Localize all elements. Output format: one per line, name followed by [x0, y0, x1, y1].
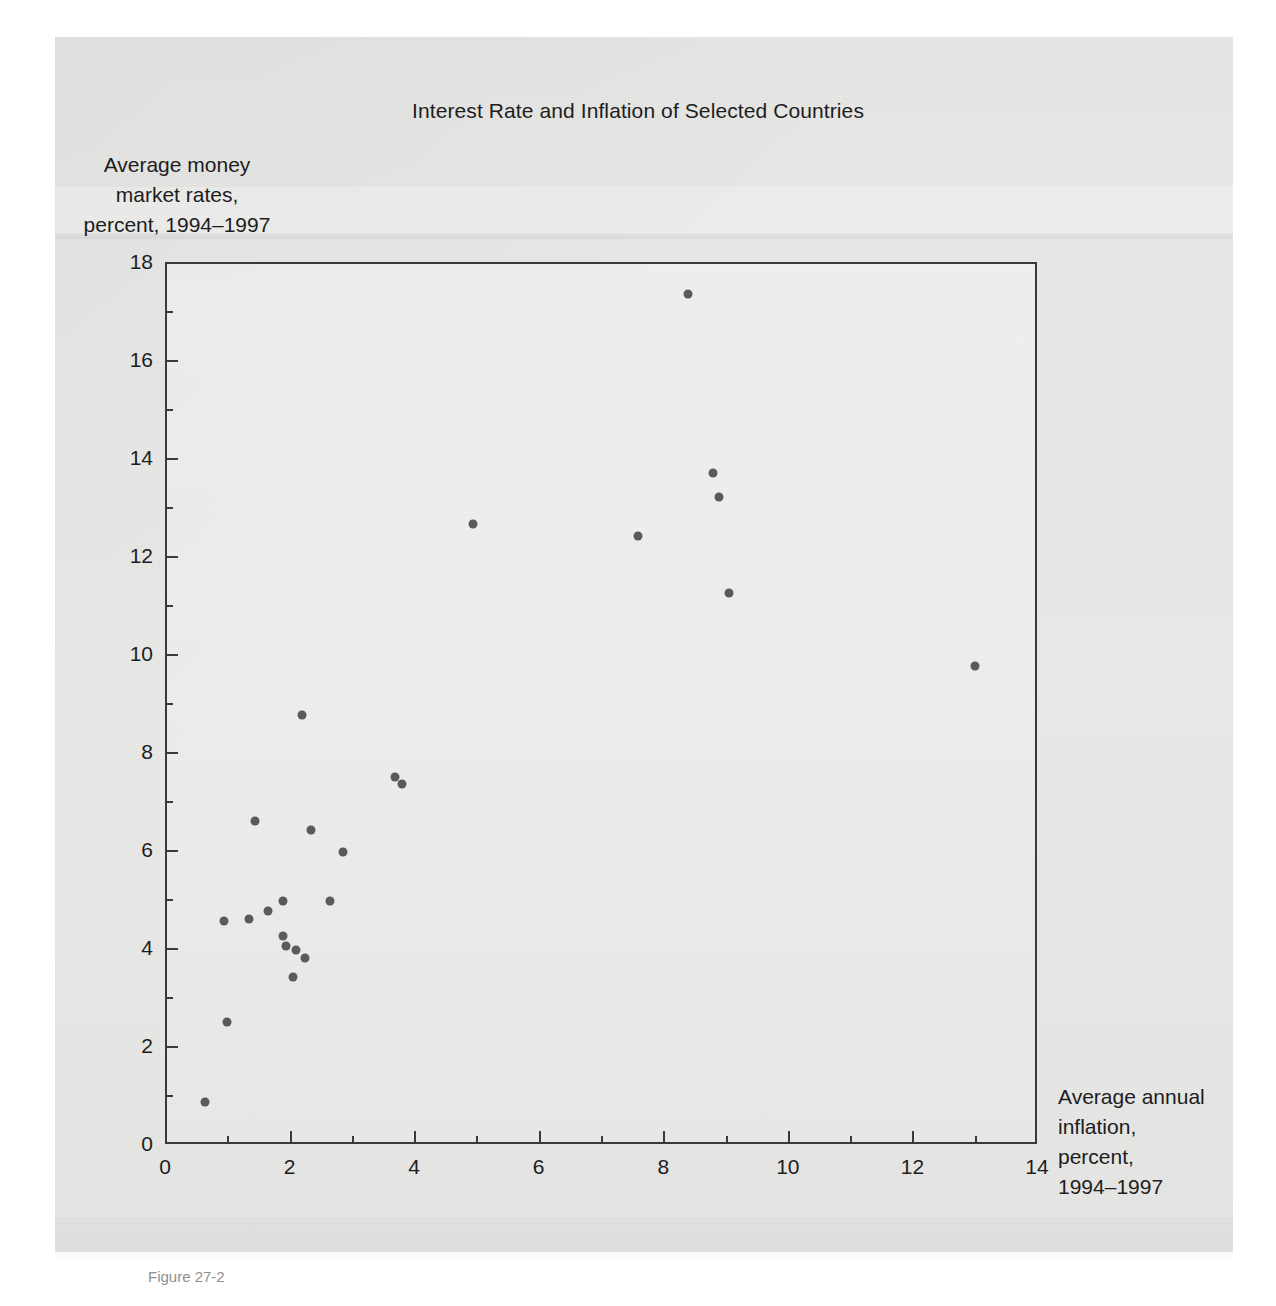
y-axis-tick-label: 12 — [93, 544, 153, 568]
data-point — [469, 520, 478, 529]
y-axis-minor-tick — [165, 507, 173, 509]
y-axis-minor-tick — [165, 899, 173, 901]
x-axis-minor-tick — [850, 1136, 852, 1144]
data-point — [279, 931, 288, 940]
y-axis-tick-label: 2 — [93, 1034, 153, 1058]
x-axis-major-tick — [663, 1131, 665, 1144]
y-axis-label-line-3: percent, 1994–1997 — [52, 210, 302, 240]
y-axis-minor-tick — [165, 311, 173, 313]
x-axis-label: Average annual inflation, percent, 1994–… — [1058, 1082, 1268, 1202]
x-axis-major-tick — [788, 1131, 790, 1144]
x-axis-major-tick — [539, 1131, 541, 1144]
x-axis-tick-label: 6 — [514, 1155, 564, 1179]
chart-title: Interest Rate and Inflation of Selected … — [0, 99, 1276, 123]
scatter-plot-area — [165, 262, 1037, 1144]
data-point — [251, 816, 260, 825]
data-point — [397, 779, 406, 788]
y-axis-major-tick — [165, 556, 178, 558]
y-axis-label-line-2: market rates, — [52, 180, 302, 210]
y-axis-minor-tick — [165, 801, 173, 803]
data-point — [684, 289, 693, 298]
y-axis-label-line-1: Average money — [52, 150, 302, 180]
y-axis-minor-tick — [165, 703, 173, 705]
y-axis-label: Average money market rates, percent, 199… — [52, 150, 302, 240]
x-axis-tick-label: 0 — [140, 1155, 190, 1179]
data-point — [326, 897, 335, 906]
x-axis-minor-tick — [601, 1136, 603, 1144]
y-axis-tick-label: 8 — [93, 740, 153, 764]
figure-caption: Figure 27-2 — [148, 1268, 225, 1285]
x-axis-minor-tick — [476, 1136, 478, 1144]
data-point — [970, 662, 979, 671]
x-axis-label-line-4: 1994–1997 — [1058, 1172, 1268, 1202]
y-axis-major-tick — [165, 1046, 178, 1048]
y-axis-tick-label: 0 — [93, 1132, 153, 1156]
y-axis-tick-label: 4 — [93, 936, 153, 960]
data-point — [201, 1098, 210, 1107]
data-point — [279, 897, 288, 906]
x-axis-label-line-3: percent, — [1058, 1142, 1268, 1172]
data-point — [301, 953, 310, 962]
y-axis-minor-tick — [165, 997, 173, 999]
data-point — [634, 532, 643, 541]
data-point — [724, 588, 733, 597]
x-axis-tick-label: 4 — [389, 1155, 439, 1179]
y-axis-tick-label: 16 — [93, 348, 153, 372]
y-axis-major-tick — [165, 948, 178, 950]
x-axis-minor-tick — [726, 1136, 728, 1144]
data-point — [263, 907, 272, 916]
x-axis-major-tick — [912, 1131, 914, 1144]
y-axis-major-tick — [165, 262, 178, 264]
scan-band — [55, 1217, 1233, 1257]
x-axis-minor-tick — [352, 1136, 354, 1144]
x-axis-minor-tick — [975, 1136, 977, 1144]
y-axis-tick-label: 14 — [93, 446, 153, 470]
y-axis-tick-label: 18 — [93, 250, 153, 274]
y-axis-tick-label: 6 — [93, 838, 153, 862]
x-axis-label-line-1: Average annual — [1058, 1082, 1268, 1112]
y-axis-major-tick — [165, 654, 178, 656]
y-axis-minor-tick — [165, 409, 173, 411]
y-axis-minor-tick — [165, 1095, 173, 1097]
x-axis-major-tick — [290, 1131, 292, 1144]
y-axis-major-tick — [165, 360, 178, 362]
y-axis-minor-tick — [165, 605, 173, 607]
x-axis-tick-label: 10 — [763, 1155, 813, 1179]
data-point — [307, 826, 316, 835]
data-point — [245, 914, 254, 923]
y-axis-major-tick — [165, 850, 178, 852]
data-point — [298, 711, 307, 720]
y-axis-major-tick — [165, 458, 178, 460]
x-axis-tick-label: 14 — [1012, 1155, 1062, 1179]
x-axis-minor-tick — [227, 1136, 229, 1144]
data-point — [709, 468, 718, 477]
data-point — [288, 973, 297, 982]
y-axis-tick-label: 10 — [93, 642, 153, 666]
data-point — [220, 917, 229, 926]
figure-page: Interest Rate and Inflation of Selected … — [0, 0, 1276, 1306]
data-point — [291, 946, 300, 955]
y-axis-major-tick — [165, 752, 178, 754]
x-axis-major-tick — [414, 1131, 416, 1144]
data-point — [715, 493, 724, 502]
data-point — [282, 941, 291, 950]
x-axis-tick-label: 12 — [887, 1155, 937, 1179]
x-axis-tick-label: 2 — [265, 1155, 315, 1179]
x-axis-label-line-2: inflation, — [1058, 1112, 1268, 1142]
x-axis-tick-label: 8 — [638, 1155, 688, 1179]
data-point — [338, 848, 347, 857]
data-point — [223, 1017, 232, 1026]
